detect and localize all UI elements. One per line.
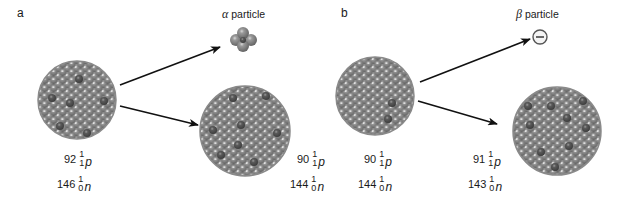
daughter-a-protons: 90 11 p xyxy=(297,150,325,168)
parent-nucleus-b xyxy=(336,57,414,135)
panel-label-b: b xyxy=(341,6,348,20)
daughter-nucleus-b xyxy=(513,87,601,175)
arrow-to-alpha xyxy=(120,47,220,85)
beta-particle-text: particle xyxy=(522,8,559,20)
arrow-to-daughter-a xyxy=(120,106,198,125)
decay-diagram-graphics xyxy=(0,0,620,201)
beta-particle-icon xyxy=(533,30,547,44)
parent-a-protons: 92 11 p xyxy=(64,150,92,168)
arrow-to-daughter-b xyxy=(418,101,497,124)
daughter-a-neutrons: 144 10 n xyxy=(290,175,324,193)
daughter-b-neutrons: 143 10 n xyxy=(468,175,502,193)
parent-a-neutrons: 146 10 n xyxy=(57,175,91,193)
alpha-particle-icon xyxy=(230,27,257,52)
alpha-particle-text: particle xyxy=(228,8,265,20)
alpha-particle-label: α particle xyxy=(222,7,265,22)
arrow-to-beta xyxy=(420,39,530,82)
daughter-b-protons: 91 11 p xyxy=(473,150,501,168)
panel-label-a: a xyxy=(17,6,24,20)
beta-particle-label: β particle xyxy=(516,7,559,22)
parent-nucleus-a xyxy=(38,61,116,139)
daughter-nucleus-a xyxy=(200,86,290,176)
parent-b-protons: 90 11 p xyxy=(364,150,392,168)
parent-b-neutrons: 144 10 n xyxy=(358,175,392,193)
